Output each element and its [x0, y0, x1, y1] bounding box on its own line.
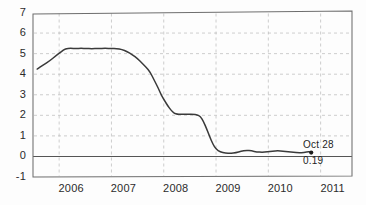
y-axis-tick-6: 6	[8, 27, 26, 38]
y-axis-tick-5: 5	[8, 48, 26, 59]
x-axis-tick-2006: 2006	[51, 183, 91, 194]
last-point-marker	[309, 150, 313, 154]
x-axis-tick-2011: 2011	[313, 183, 353, 194]
x-axis-tick-2008: 2008	[156, 183, 196, 194]
annotation-value-label: 0.19	[303, 155, 323, 166]
gridlines	[34, 14, 351, 177]
y-axis-tick-3: 3	[8, 89, 26, 100]
y-axis-tick-4: 4	[8, 68, 26, 79]
x-axis-tick-2009: 2009	[208, 183, 248, 194]
y-axis-tick-neg1: -1	[8, 171, 26, 182]
chart-plot-area	[0, 0, 366, 205]
line-chart: 76543210-1 200620072008200920102011 Oct …	[0, 0, 366, 205]
y-axis-tick-0: 0	[8, 150, 26, 161]
x-axis-tick-2007: 2007	[103, 183, 143, 194]
annotation-date-label: Oct 28	[303, 139, 334, 150]
data-series-line	[37, 48, 311, 153]
y-axis-tick-1: 1	[8, 130, 26, 141]
y-axis-tick-2: 2	[8, 109, 26, 120]
y-axis-tick-7: 7	[8, 7, 26, 18]
x-axis-tick-2010: 2010	[260, 183, 300, 194]
